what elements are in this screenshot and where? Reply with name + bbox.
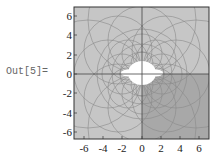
contour-plot: -6 -4 -2 0 2 4 6 6 4 2 0 -2 -4 -6: [0, 0, 218, 159]
svg-text:6: 6: [196, 142, 202, 154]
svg-text:-6: -6: [79, 142, 89, 154]
svg-text:6: 6: [67, 10, 73, 22]
svg-text:-6: -6: [63, 126, 73, 138]
svg-text:-2: -2: [63, 87, 72, 99]
svg-text:2: 2: [67, 49, 73, 61]
svg-text:-4: -4: [98, 142, 108, 154]
plot-area: [34, 0, 218, 159]
y-tick-labels: 6 4 2 0 -2 -4 -6: [63, 10, 73, 138]
svg-text:0: 0: [139, 142, 145, 154]
svg-text:-4: -4: [63, 107, 73, 119]
svg-text:4: 4: [67, 29, 73, 41]
svg-text:4: 4: [177, 142, 183, 154]
x-tick-labels: -6 -4 -2 0 2 4 6: [79, 142, 202, 154]
svg-text:-2: -2: [117, 142, 126, 154]
svg-text:0: 0: [67, 68, 73, 80]
svg-text:2: 2: [158, 142, 164, 154]
